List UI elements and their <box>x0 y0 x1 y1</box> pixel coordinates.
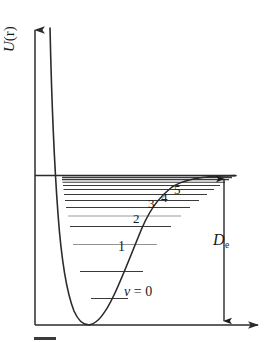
morse-potential-figure: U(r) De ν = 0 1 2 3 4 5 <box>0 0 266 342</box>
level-label-v4: 4 <box>161 191 168 204</box>
morse-potential-curve <box>50 28 236 325</box>
level-label-v0: ν = 0 <box>124 285 152 299</box>
dissociation-energy-symbol: D <box>213 231 225 248</box>
level-label-v2: 2 <box>133 212 140 225</box>
caption-fragment <box>34 335 234 341</box>
level-label-v3: 3 <box>148 197 155 210</box>
dissociation-energy-label: De <box>213 232 229 248</box>
level-label-v1: 1 <box>118 240 125 254</box>
y-axis-label-arg: (r) <box>1 26 17 41</box>
y-axis-label-symbol: U <box>1 41 17 52</box>
ground-level-value: 0 <box>145 284 152 299</box>
equals-sign: = <box>130 284 145 299</box>
y-axis-label: U(r) <box>2 26 17 52</box>
caption-rule <box>34 337 56 340</box>
vibrational-level-lines <box>62 178 232 299</box>
level-label-v5: 5 <box>174 183 181 196</box>
dissociation-energy-subscript: e <box>225 240 229 250</box>
